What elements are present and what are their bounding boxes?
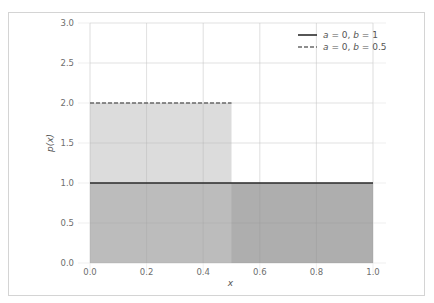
y-tick-labels: 0.00.51.01.52.02.53.0 [60, 18, 74, 268]
y-tick-label: 1.0 [60, 178, 74, 188]
x-tick-label: 0.6 [253, 267, 267, 277]
x-tick-label: 1.0 [366, 267, 380, 277]
legend-label-0: a = 0, b = 1 [323, 30, 378, 40]
x-tick-labels: 0.00.20.40.60.81.0 [83, 267, 380, 277]
y-axis-label: p(x) [45, 134, 55, 153]
x-tick-label: 0.4 [196, 267, 210, 277]
area-fills [90, 23, 373, 263]
y-tick-label: 0.0 [60, 258, 74, 268]
y-tick-label: 1.5 [60, 138, 74, 148]
x-tick-label: 0.8 [310, 267, 324, 277]
uniform-pdf-chart: 0.00.20.40.60.81.0 0.00.51.01.52.02.53.0… [0, 0, 434, 303]
y-tick-label: 3.0 [60, 18, 74, 28]
y-tick-label: 0.5 [60, 218, 74, 228]
y-tick-label: 2.0 [60, 98, 74, 108]
y-tick-label: 2.5 [60, 58, 74, 68]
x-axis-label: x [227, 278, 234, 288]
legend-label-1: a = 0, b = 0.5 [323, 42, 387, 52]
x-tick-label: 0.2 [140, 267, 154, 277]
x-tick-label: 0.0 [83, 267, 97, 277]
